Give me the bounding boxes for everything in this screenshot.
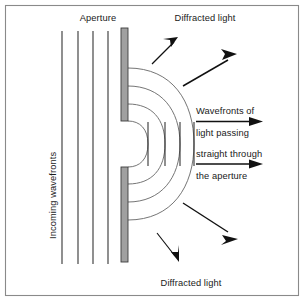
diffracted-wavefront-curve-1: [128, 121, 148, 167]
label-incoming-wavefronts: Incoming wavefronts: [48, 152, 58, 239]
arrow-straight-through-2: [196, 160, 263, 169]
arrow-diffracted-top-outer: [183, 49, 237, 86]
diagram-canvas: Aperture Diffracted light Diffracted lig…: [0, 0, 304, 301]
label-straight-through-line-4: the aperture: [196, 171, 247, 181]
diffracted-wavefronts-group: [128, 68, 194, 220]
aperture-barrier-group: [121, 28, 128, 262]
arrow-diffracted-bottom-outer: [183, 203, 238, 245]
label-diffracted-light-top: Diffracted light: [175, 13, 236, 23]
label-aperture: Aperture: [80, 13, 116, 23]
incoming-wavefronts-group: [62, 31, 108, 264]
aperture-barrier-lower: [121, 167, 128, 262]
label-diffracted-light-bottom: Diffracted light: [161, 278, 222, 288]
label-straight-through-line-2: light passing: [196, 128, 249, 138]
diffracted-wavefront-curve-3: [128, 86, 180, 202]
arrow-diffracted-bottom-inner: [157, 233, 179, 262]
straight-through-wavefronts-group: [148, 122, 194, 166]
label-straight-through-line-3: straight through: [196, 149, 262, 159]
diffraction-diagram: Aperture Diffracted light Diffracted lig…: [0, 0, 304, 301]
aperture-barrier-upper: [121, 28, 128, 121]
label-straight-through-line-1: Wavefronts of: [196, 106, 255, 116]
diffracted-wavefront-curve-4: [128, 68, 194, 220]
arrow-diffracted-top-inner: [152, 37, 178, 64]
diffracted-wavefront-curve-2: [128, 104, 165, 184]
arrow-straight-through-1: [196, 117, 263, 126]
